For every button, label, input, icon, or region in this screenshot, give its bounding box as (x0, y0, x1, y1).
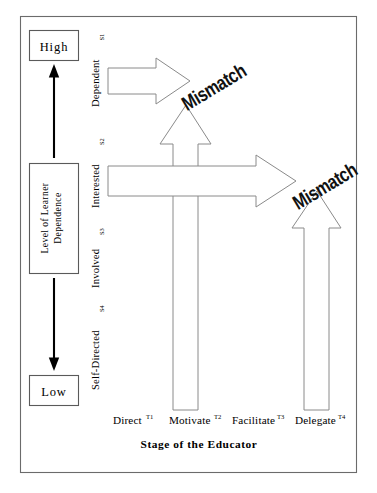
learner-stage-label-self-directed: Self-Directed S4 (90, 304, 105, 390)
level-of-learner-dependence-label-line2: Dependence (52, 192, 63, 243)
level-of-learner-dependence-label-line1: Level of Learner (39, 182, 50, 253)
educator-stage-label-motivate: Motivate T2 (169, 413, 221, 426)
low-box-label: Low (41, 385, 67, 399)
educator-stage-label-delegate: Delegate T4 (295, 413, 346, 426)
diagram-svg: High Level of Learner Dependence Low Dep… (0, 0, 377, 493)
educator-stage-direct-code: T1 (146, 413, 153, 420)
learner-stage-label-dependent: Dependent S1 (90, 34, 105, 107)
block-arrow-delegate-up (292, 191, 341, 410)
learner-stage-self-directed-text: Self-Directed (90, 330, 101, 390)
learner-stage-interested-code: S2 (98, 138, 105, 145)
high-box-label: High (40, 40, 69, 54)
diagram-canvas: High Level of Learner Dependence Low Dep… (0, 0, 377, 493)
diagram-title: Stage of the Educator (141, 438, 258, 450)
learner-stage-involved-code: S3 (98, 228, 105, 235)
educator-stage-facilitate-text: Facilitate (232, 414, 275, 426)
learner-stage-label-interested: Interested S2 (90, 138, 105, 208)
educator-stage-direct-text: Direct (113, 414, 143, 426)
educator-stage-motivate-text: Motivate (169, 414, 211, 426)
learner-stage-interested-text: Interested (90, 164, 101, 208)
learner-stage-label-involved: Involved S3 (90, 228, 105, 288)
educator-stage-delegate-code: T4 (338, 413, 346, 420)
block-arrow-motivate-up (160, 105, 211, 410)
educator-stage-motivate-code: T2 (214, 413, 221, 420)
educator-stage-label-facilitate: Facilitate T3 (232, 413, 285, 426)
down-arrow-icon (49, 278, 59, 371)
learner-stage-dependent-code: S1 (98, 34, 105, 41)
learner-stage-dependent-text: Dependent (90, 59, 101, 107)
learner-stage-involved-text: Involved (90, 248, 101, 288)
educator-stage-label-direct: Direct T1 (113, 413, 153, 426)
educator-stage-delegate-text: Delegate (295, 414, 336, 426)
educator-stage-facilitate-code: T3 (277, 413, 285, 420)
learner-stage-self-directed-code: S4 (98, 304, 105, 312)
block-arrow-interested-right (108, 155, 296, 207)
up-arrow-icon (49, 64, 59, 158)
